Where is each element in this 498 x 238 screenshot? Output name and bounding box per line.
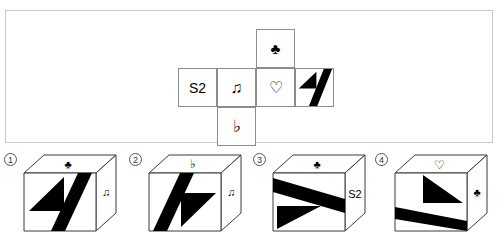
cube-svg-3: ♣ S2 bbox=[269, 151, 369, 235]
heart-outline-icon: ♡ bbox=[269, 80, 283, 96]
option-number-3: 3 bbox=[253, 153, 266, 166]
cube-illustration-3: ♣ S2 bbox=[269, 151, 369, 235]
cube-illustration-1: ♣ ♫ bbox=[20, 151, 120, 235]
answer-option-4[interactable]: 4 ♡ ♣ bbox=[371, 148, 495, 238]
option-3-top-glyph: ♣ bbox=[313, 158, 320, 170]
cube-svg-1: ♣ ♫ bbox=[20, 151, 120, 235]
cube-illustration-4: ♡ ♣ bbox=[391, 151, 491, 235]
music-flat-icon: ♭ bbox=[233, 118, 241, 135]
answer-option-2[interactable]: 2 ♭ ♫ bbox=[125, 148, 249, 238]
cube-svg-2: ♭ ♫ bbox=[145, 151, 245, 235]
net-cell-left-s2: S2 bbox=[178, 68, 217, 107]
club-icon: ♣ bbox=[271, 41, 281, 56]
net-cell-bottom-flat: ♭ bbox=[217, 107, 256, 146]
question-panel: ♣ S2 ♫ ♡ ♭ bbox=[5, 10, 493, 143]
option-3-right-label: S2 bbox=[348, 188, 361, 200]
net-cell-midleft-notes: ♫ bbox=[217, 68, 256, 107]
answer-option-1[interactable]: 1 ♣ ♫ bbox=[0, 148, 124, 238]
answer-options-row: 1 ♣ ♫ 2 bbox=[0, 148, 498, 238]
net-cell-right-pattern bbox=[295, 68, 334, 107]
s2-label: S2 bbox=[189, 81, 206, 95]
option-4-right-glyph: ♣ bbox=[473, 186, 480, 198]
option-number-2: 2 bbox=[129, 153, 142, 166]
option-2-top-glyph: ♭ bbox=[190, 157, 196, 171]
cube-svg-4: ♡ ♣ bbox=[391, 151, 491, 235]
net-cell-midright-heart: ♡ bbox=[256, 68, 295, 107]
option-4-top-glyph: ♡ bbox=[434, 158, 445, 172]
option-1-right-glyph: ♫ bbox=[102, 186, 110, 198]
option-number-4: 4 bbox=[375, 153, 388, 166]
cube-net-diagram: ♣ S2 ♫ ♡ ♭ bbox=[171, 19, 341, 147]
cube-illustration-2: ♭ ♫ bbox=[145, 151, 245, 235]
beamed-eighth-notes-icon: ♫ bbox=[231, 80, 243, 96]
triangle-stripe-icon bbox=[296, 69, 333, 106]
answer-option-3[interactable]: 3 ♣ S2 bbox=[249, 148, 373, 238]
option-1-top-glyph: ♣ bbox=[64, 158, 71, 170]
option-number-1: 1 bbox=[4, 153, 17, 166]
net-cell-top-club: ♣ bbox=[256, 29, 295, 68]
option-2-right-glyph: ♫ bbox=[227, 186, 235, 198]
